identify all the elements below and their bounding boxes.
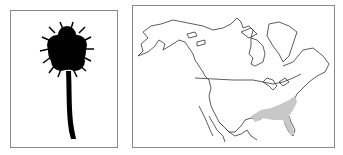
southeast-range-highlight <box>251 96 297 136</box>
baja-mexico <box>199 106 257 142</box>
greenland-outline <box>267 22 297 62</box>
north-america-map <box>133 6 334 147</box>
west-coast-outline <box>138 40 223 126</box>
hudson-bay-outline <box>249 38 265 66</box>
range-map-panel <box>132 5 335 148</box>
great-lakes <box>263 78 289 90</box>
us-canada-border <box>195 74 301 84</box>
alaska-canada-outline <box>138 18 253 56</box>
palm-tree-icon <box>11 11 117 147</box>
arctic-islands <box>187 28 257 46</box>
tree-silhouette-panel <box>10 10 118 148</box>
